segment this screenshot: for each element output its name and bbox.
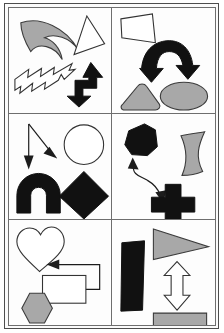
panel-middle-right[interactable] — [111, 113, 216, 220]
diagonal-arrow-head-icon — [43, 146, 57, 158]
diamond-shape[interactable] — [59, 171, 108, 219]
panel-middle-right-canvas — [112, 114, 215, 219]
panel-bottom-left-canvas — [9, 220, 112, 325]
panel-bottom-right-canvas — [112, 220, 215, 325]
right-triangle-wedge-shape[interactable] — [153, 228, 208, 259]
rectangle-shape[interactable] — [42, 275, 85, 303]
vertical-double-arrow-shape[interactable] — [164, 261, 190, 310]
arch-horseshoe-shape[interactable] — [16, 173, 59, 213]
panel-top-right-canvas — [112, 8, 215, 113]
half-disc-shape[interactable] — [153, 313, 206, 325]
connector-arrow-head-up-icon — [128, 157, 139, 169]
hexagon-blob-shape[interactable] — [125, 123, 158, 155]
panel-middle-left[interactable] — [8, 113, 113, 220]
panel-top-left[interactable] — [8, 7, 113, 114]
bent-double-arrow-shape[interactable] — [67, 62, 102, 107]
vertical-bar-shape[interactable] — [121, 240, 145, 310]
panel-top-left-canvas — [9, 8, 112, 113]
crescent-claw-shape[interactable] — [20, 20, 77, 59]
lightning-bolt-arrow-shape[interactable] — [14, 63, 74, 93]
panel-bottom-left[interactable] — [8, 219, 113, 326]
ellipse-shape[interactable] — [160, 82, 207, 110]
rounded-triangle-shape[interactable] — [121, 84, 160, 110]
diagonal-arrow-line[interactable] — [28, 123, 51, 152]
triangle-shape[interactable] — [74, 15, 105, 54]
wavy-ribbon-shape[interactable] — [181, 131, 205, 175]
panel-top-right[interactable] — [111, 7, 216, 114]
figure-sheet — [0, 0, 224, 333]
curved-double-arrow-connector[interactable] — [133, 165, 160, 195]
down-arrow-head-icon — [23, 155, 33, 169]
panel-bottom-right[interactable] — [111, 219, 216, 326]
circle-shape[interactable] — [64, 124, 103, 164]
trapezoid-shape[interactable] — [121, 13, 155, 42]
curved-double-arrow-shape[interactable] — [140, 40, 200, 82]
panel-grid — [8, 7, 215, 325]
panel-middle-left-canvas — [9, 114, 112, 219]
